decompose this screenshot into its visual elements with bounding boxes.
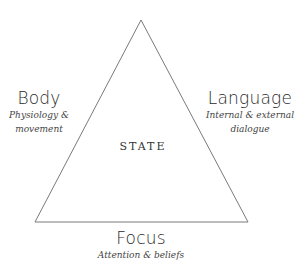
node-focus-title: Focus <box>91 228 191 248</box>
node-language-subtitle-2: dialogue <box>196 122 304 136</box>
node-body: Body Physiology & movement <box>0 88 78 136</box>
node-body-title: Body <box>0 88 78 108</box>
node-language-subtitle-1: Internal & external <box>196 108 304 122</box>
node-focus-subtitle: Attention & beliefs <box>91 248 191 262</box>
center-label-state: STATE <box>111 140 175 153</box>
node-body-subtitle-1: Physiology & <box>0 108 78 122</box>
node-language: Language Internal & external dialogue <box>196 88 304 136</box>
node-language-title: Language <box>196 88 304 108</box>
node-body-subtitle-2: movement <box>0 122 78 136</box>
node-focus: Focus Attention & beliefs <box>91 228 191 262</box>
